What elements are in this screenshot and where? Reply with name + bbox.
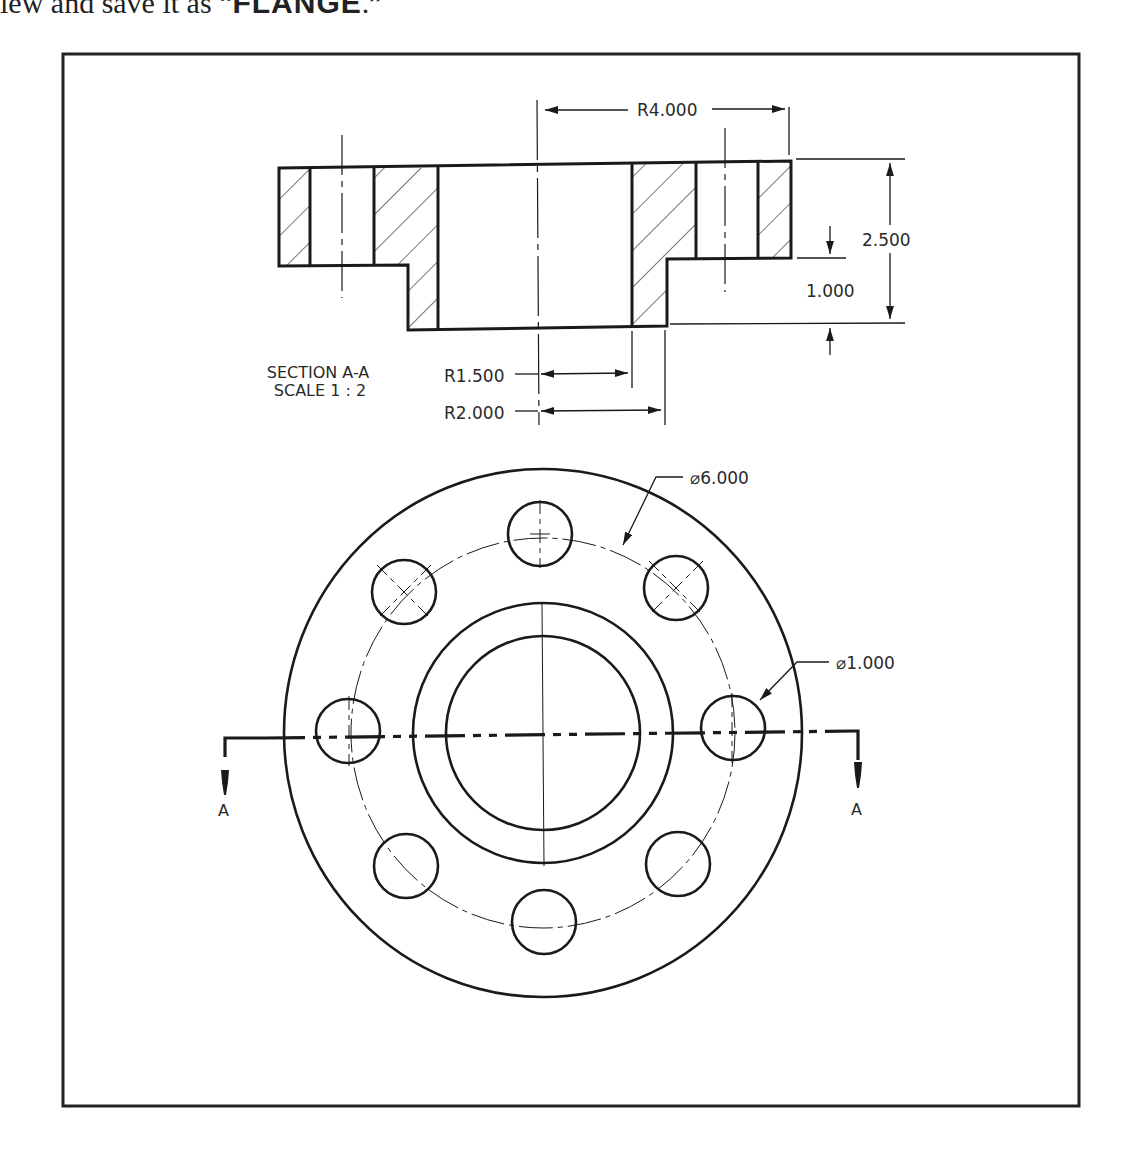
dim-hub-radius-text: R2.000 (444, 403, 504, 423)
dim-flange-thickness-text: 1.000 (806, 281, 855, 301)
dim-bolt-circle-leader (623, 477, 683, 545)
bolt-holes (316, 502, 765, 954)
bolt-hole (374, 834, 438, 898)
dim-bore-radius-text: R1.500 (444, 366, 504, 386)
dim-hub-radius (515, 330, 665, 425)
bolt-hole (512, 890, 576, 954)
section-outline (279, 161, 791, 330)
front-view: A A ⌀6.000 ⌀1.000 (218, 468, 895, 997)
dim-outer-radius-text: R4.000 (637, 100, 697, 120)
bolt-hole (316, 699, 380, 763)
section-scale: SCALE 1 : 2 (274, 381, 366, 400)
section-view: R4.000 2.500 1.000 R1.500 R2.000 (267, 100, 911, 425)
dim-bore-radius (515, 331, 632, 388)
dim-bolt-hole-text: ⌀1.000 (836, 653, 895, 673)
section-marker-left: A (218, 801, 229, 820)
engineering-drawing: R4.000 2.500 1.000 R1.500 R2.000 (0, 0, 1126, 1153)
section-title: SECTION A-A (267, 363, 370, 382)
section-arrows (221, 762, 862, 795)
dim-total-height-text: 2.500 (862, 230, 911, 250)
section-marker-right: A (851, 800, 862, 819)
hatch-regions (279, 161, 791, 330)
bolt-hole (646, 832, 710, 896)
drawing-frame (63, 54, 1079, 1106)
dim-bolt-circle-text: ⌀6.000 (690, 468, 749, 488)
